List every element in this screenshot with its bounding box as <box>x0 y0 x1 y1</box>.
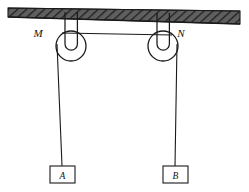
pulley-wheel-n <box>148 31 178 61</box>
pulley-label-m: M <box>32 27 43 39</box>
ceiling-support <box>8 8 240 24</box>
rope-left-vertical-to-block-a <box>57 44 62 166</box>
block-b: B <box>163 166 188 183</box>
rope-right-vertical-to-block-b <box>175 44 177 166</box>
pulley-label-n: N <box>176 27 185 39</box>
rope-system <box>57 33 177 166</box>
block-b-label: B <box>173 171 179 181</box>
block-a-label: A <box>59 171 66 181</box>
pulley-assembly-m: M <box>32 12 86 61</box>
pulley-wheel-m <box>56 31 86 61</box>
pulley-diagram: M N A B <box>0 0 249 192</box>
block-a: A <box>50 166 75 183</box>
diagram-canvas: M N A B <box>0 0 249 192</box>
